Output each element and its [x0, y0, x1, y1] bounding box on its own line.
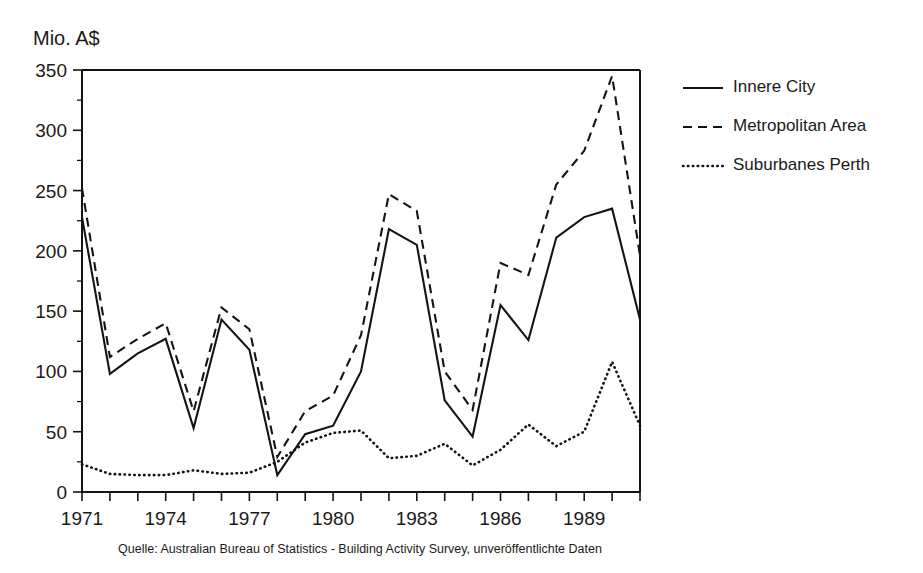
- source-note: Quelle: Australian Bureau of Statistics …: [118, 542, 602, 556]
- legend-label: Suburbanes Perth: [733, 155, 870, 174]
- chart-figure: Mio. A$ 050100150200250300350 1971197419…: [0, 0, 923, 573]
- legend-label: Innere City: [733, 77, 816, 96]
- x-tick-label: 1971: [61, 508, 103, 529]
- y-tick-label: 100: [35, 361, 67, 382]
- x-tick-label: 1974: [145, 508, 188, 529]
- x-tick-label: 1989: [563, 508, 605, 529]
- y-tick-label: 250: [35, 181, 67, 202]
- y-tick-label: 300: [35, 120, 67, 141]
- x-tick-label: 1977: [228, 508, 270, 529]
- y-axis-unit-label: Mio. A$: [33, 27, 100, 49]
- y-tick-label: 200: [35, 241, 67, 262]
- y-tick-label: 350: [35, 60, 67, 81]
- y-tick-label: 50: [46, 422, 67, 443]
- legend-label: Metropolitan Area: [733, 116, 867, 135]
- x-tick-label: 1986: [479, 508, 521, 529]
- y-tick-label: 0: [56, 482, 67, 503]
- x-tick-label: 1983: [396, 508, 438, 529]
- x-tick-label: 1980: [312, 508, 354, 529]
- y-tick-label: 150: [35, 301, 67, 322]
